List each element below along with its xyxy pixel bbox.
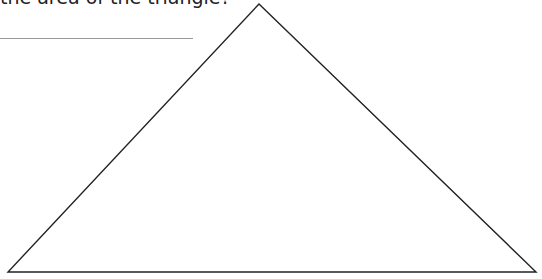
triangle-figure [0, 0, 542, 279]
triangle [8, 4, 536, 272]
